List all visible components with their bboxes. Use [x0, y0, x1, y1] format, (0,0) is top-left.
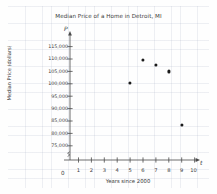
y-axis-break-mark — [68, 152, 70, 157]
chart-figure: Median Price of a Home in Detroit, MI Me… — [0, 0, 217, 194]
y-axis-arrowhead — [68, 31, 72, 35]
x-axis-arrowhead — [196, 158, 200, 162]
axes-svg — [0, 0, 217, 194]
